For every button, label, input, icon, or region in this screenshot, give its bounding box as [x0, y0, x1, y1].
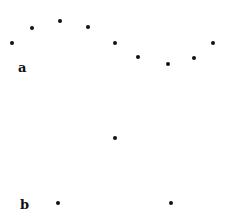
point-a [211, 41, 215, 45]
point-b [169, 201, 173, 205]
point-a [10, 41, 14, 45]
point-a [86, 25, 90, 29]
point-a [136, 55, 140, 59]
panel-label-a: a [18, 61, 26, 74]
point-b [113, 136, 117, 140]
point-a [30, 26, 34, 30]
panel-label-b: b [20, 198, 29, 211]
point-b [56, 201, 60, 205]
point-a [192, 56, 196, 60]
point-a [58, 19, 62, 23]
point-a [166, 62, 170, 66]
point-a [113, 41, 117, 45]
